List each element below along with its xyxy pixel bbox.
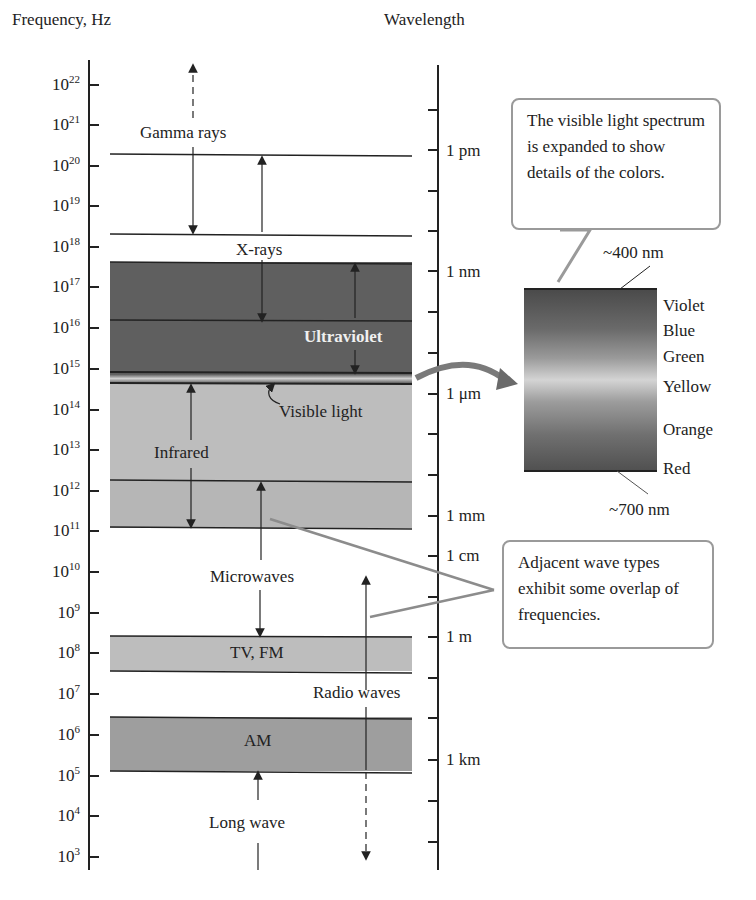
freq-tick: 1017 bbox=[20, 277, 80, 297]
label-ultraviolet: Ultraviolet bbox=[304, 327, 382, 347]
spectrum-top-wavelength: ~400 nm bbox=[603, 243, 664, 263]
wavelength-1mm: 1 mm bbox=[446, 506, 485, 526]
spectrum-bottom-wavelength: ~700 nm bbox=[609, 500, 670, 520]
label-visible-light: Visible light bbox=[279, 402, 363, 422]
label-gamma-rays: Gamma rays bbox=[140, 123, 226, 143]
wavelength-1um: 1 μm bbox=[446, 384, 481, 404]
freq-tick: 1010 bbox=[20, 562, 80, 582]
color-orange: Orange bbox=[663, 420, 713, 440]
ultraviolet-band bbox=[110, 262, 412, 374]
label-microwaves: Microwaves bbox=[210, 567, 294, 587]
visible-spectrum-gradient bbox=[524, 289, 657, 471]
freq-tick: 1013 bbox=[20, 440, 80, 460]
freq-tick: 1014 bbox=[20, 400, 80, 420]
freq-tick: 1021 bbox=[20, 115, 80, 135]
callout-visible-spectrum: The visible light spectrum is expanded t… bbox=[511, 98, 721, 230]
wavelength-1pm: 1 pm bbox=[446, 141, 480, 161]
color-red: Red bbox=[663, 459, 690, 479]
freq-tick: 1016 bbox=[20, 318, 80, 338]
label-x-rays: X-rays bbox=[236, 240, 282, 260]
label-long-wave: Long wave bbox=[209, 813, 285, 833]
visible-band bbox=[110, 374, 412, 383]
wavelength-1km: 1 km bbox=[446, 750, 480, 770]
color-blue: Blue bbox=[663, 321, 695, 341]
freq-tick: 106 bbox=[20, 725, 80, 745]
freq-tick: 1015 bbox=[20, 359, 80, 379]
wavelength-1nm: 1 nm bbox=[446, 262, 480, 282]
label-infrared: Infrared bbox=[154, 443, 209, 463]
freq-tick: 108 bbox=[20, 643, 80, 663]
freq-tick: 1020 bbox=[20, 156, 80, 176]
label-radio-waves: Radio waves bbox=[313, 683, 400, 703]
freq-tick: 1012 bbox=[20, 481, 80, 501]
freq-tick: 105 bbox=[20, 766, 80, 786]
freq-tick: 1022 bbox=[20, 75, 80, 95]
freq-tick: 1019 bbox=[20, 196, 80, 216]
wavelength-1m: 1 m bbox=[446, 627, 472, 647]
color-yellow: Yellow bbox=[663, 377, 711, 397]
freq-tick: 103 bbox=[20, 847, 80, 867]
wavelength-1cm: 1 cm bbox=[446, 546, 480, 566]
freq-tick: 107 bbox=[20, 684, 80, 704]
freq-tick: 104 bbox=[20, 806, 80, 826]
frequency-tick-labels: 1022 1021 1020 1019 1018 1017 1016 1015 … bbox=[20, 0, 80, 900]
color-green: Green bbox=[663, 347, 705, 367]
label-am: AM bbox=[244, 731, 271, 751]
freq-tick: 1011 bbox=[20, 521, 80, 541]
color-violet: Violet bbox=[663, 296, 704, 316]
freq-tick: 1018 bbox=[20, 237, 80, 257]
wavelength-axis-title: Wavelength bbox=[384, 10, 465, 30]
label-tv-fm: TV, FM bbox=[230, 643, 284, 663]
callout-overlap: Adjacent wave types exhibit some overlap… bbox=[502, 540, 714, 649]
freq-tick: 109 bbox=[20, 603, 80, 623]
